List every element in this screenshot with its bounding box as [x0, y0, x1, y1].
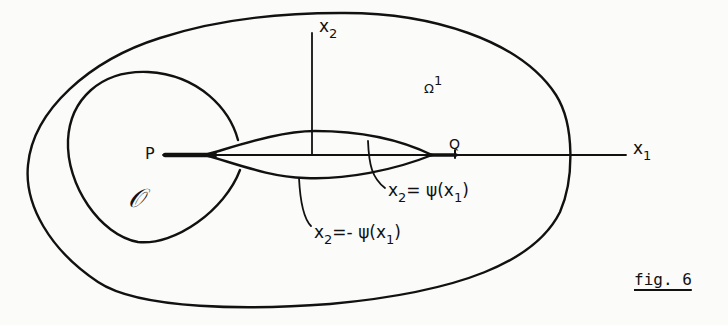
omega-sup: 1	[434, 73, 442, 88]
x1-base: x	[633, 138, 643, 158]
lower-lhs-base: x	[314, 222, 324, 242]
x2-axis-label: x2	[319, 18, 337, 35]
point-p-label: P	[145, 146, 155, 162]
x2-base: x	[319, 16, 329, 36]
lower-close: )	[394, 222, 401, 242]
upper-lhs-base: x	[388, 180, 398, 200]
diagram-drawing	[0, 0, 728, 325]
x1-sub: 1	[643, 148, 651, 163]
lower-lhs-sub: 2	[324, 232, 332, 247]
outer-boundary-curve	[28, 13, 571, 307]
figure-caption: fig. 6	[634, 272, 692, 288]
omega-region-label: Ω1	[424, 82, 442, 95]
upper-lhs-sub: 2	[398, 190, 406, 205]
upper-rhs: = ψ(x	[406, 180, 454, 200]
figure-canvas: x2 x1 P Q Ω1 𝒪 x2= ψ(x1) x2=- ψ(x1) fig.…	[0, 0, 728, 325]
upper-curve-label: x2= ψ(x1)	[388, 182, 469, 199]
omega-base: Ω	[424, 81, 434, 96]
x1-axis-label: x1	[633, 140, 651, 157]
lens-upper-curve	[205, 131, 432, 155]
lower-curve-label: x2=- ψ(x1)	[314, 224, 401, 241]
x2-sub: 2	[329, 26, 337, 41]
lower-curve-leader	[299, 178, 311, 226]
upper-close: )	[462, 180, 469, 200]
lower-rhs-sub: 1	[386, 232, 394, 247]
lower-rhs: =- ψ(x	[332, 222, 386, 242]
upper-curve-leader	[368, 141, 385, 188]
point-q-label: Q	[449, 137, 460, 151]
o-region-label: 𝒪	[128, 185, 144, 211]
upper-rhs-sub: 1	[454, 190, 462, 205]
